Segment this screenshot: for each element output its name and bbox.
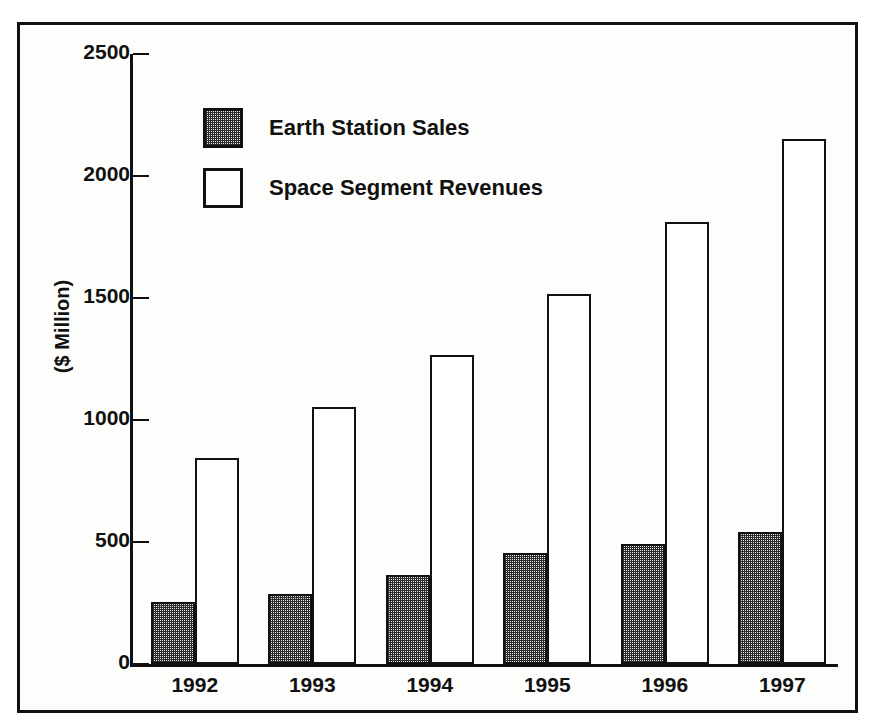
- chart-legend: Earth Station Sales Space Segment Revenu…: [203, 108, 543, 228]
- bar-1994-earth-station-sales: [386, 575, 430, 664]
- legend-item-earth-station-sales: Earth Station Sales: [203, 108, 543, 148]
- checkered-swatch-icon: [203, 108, 243, 148]
- x-axis-line: [130, 664, 838, 667]
- bar-1996-earth-station-sales: [621, 544, 665, 664]
- y-axis-ticks: 05001000150020002500: [20, 25, 130, 710]
- y-tick-label: 1000: [34, 406, 130, 430]
- bar-1992-earth-station-sales: [151, 602, 195, 664]
- bar-1994-space-segment-revenues: [430, 355, 474, 664]
- y-axis-title: ($ Million): [51, 247, 74, 407]
- chart-canvas: 05001000150020002500 ($ Million) 1992199…: [20, 25, 855, 710]
- legend-label: Space Segment Revenues: [269, 175, 543, 201]
- x-tick-label: 1996: [606, 673, 724, 697]
- bar-1992-space-segment-revenues: [195, 458, 239, 664]
- bar-1993-earth-station-sales: [268, 594, 312, 664]
- bar-1993-space-segment-revenues: [312, 407, 356, 664]
- y-tick-label: 1500: [34, 284, 130, 308]
- y-tick-label: 2500: [34, 40, 130, 64]
- legend-label: Earth Station Sales: [269, 115, 470, 141]
- bar-1997-space-segment-revenues: [782, 139, 826, 664]
- x-tick-label: 1992: [136, 673, 254, 697]
- legend-item-space-segment-revenues: Space Segment Revenues: [203, 168, 543, 208]
- x-axis-labels: 199219931994199519961997: [133, 673, 838, 713]
- y-tick-label: 0: [34, 650, 130, 674]
- bar-group: [738, 54, 826, 664]
- bar-1997-earth-station-sales: [738, 532, 782, 664]
- bar-1996-space-segment-revenues: [665, 222, 709, 664]
- figure-frame: 05001000150020002500 ($ Million) 1992199…: [17, 22, 858, 713]
- x-tick-label: 1995: [489, 673, 607, 697]
- x-tick-label: 1994: [371, 673, 489, 697]
- x-tick-label: 1993: [254, 673, 372, 697]
- open-swatch-icon: [203, 168, 243, 208]
- bar-1995-space-segment-revenues: [547, 294, 591, 664]
- bar-1995-earth-station-sales: [503, 553, 547, 664]
- x-tick-label: 1997: [724, 673, 842, 697]
- y-tick-label: 500: [34, 528, 130, 552]
- bar-group: [621, 54, 709, 664]
- y-tick-label: 2000: [34, 162, 130, 186]
